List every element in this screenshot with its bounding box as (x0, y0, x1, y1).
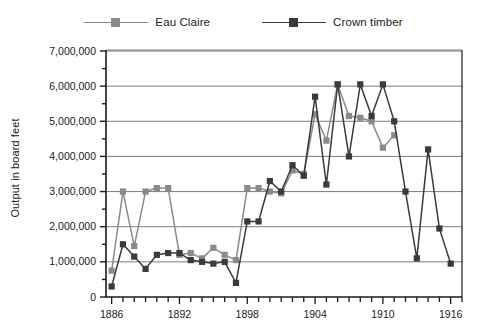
chart-container: Eau Claire Crown timber Output in board … (0, 0, 487, 336)
data-point-marker (165, 185, 171, 191)
data-series-group (109, 81, 454, 289)
data-point-marker (131, 243, 137, 249)
data-point-marker (323, 138, 329, 144)
data-point-marker (188, 250, 194, 256)
data-point-marker (380, 145, 386, 151)
x-tick-label: 1898 (236, 308, 260, 320)
y-tick-label: 0 (90, 291, 96, 303)
data-point-marker (109, 283, 115, 289)
data-point-marker (301, 173, 307, 179)
x-tick-label: 1910 (371, 308, 395, 320)
data-point-marker (368, 113, 374, 119)
data-point-marker (368, 118, 374, 124)
data-point-marker (255, 218, 261, 224)
data-point-marker (131, 253, 137, 259)
data-point-marker (165, 250, 171, 256)
y-tick-label: 6,000,000 (49, 80, 96, 92)
data-point-marker (210, 245, 216, 251)
data-point-marker (425, 146, 431, 152)
data-point-marker (222, 259, 228, 265)
y-tick-label: 5,000,000 (49, 115, 96, 127)
data-point-marker (154, 185, 160, 191)
data-point-marker (380, 81, 386, 87)
x-tick-label: 1904 (303, 308, 327, 320)
data-point-marker (210, 261, 216, 267)
data-point-marker (120, 188, 126, 194)
data-point-marker (255, 185, 261, 191)
data-point-marker (346, 153, 352, 159)
data-point-marker (188, 257, 194, 263)
y-axis-tick-labels: 01,000,0002,000,0003,000,0004,000,0005,0… (49, 45, 96, 303)
x-axis-tick-labels: 188618921898190419101916 (100, 308, 463, 320)
x-axis-ticks (112, 297, 462, 304)
data-point-marker (233, 280, 239, 286)
data-point-marker (142, 266, 148, 272)
y-tick-label: 3,000,000 (49, 185, 96, 197)
data-point-marker (391, 118, 397, 124)
data-point-marker (335, 81, 341, 87)
y-tick-label: 2,000,000 (49, 220, 96, 232)
data-point-marker (199, 259, 205, 265)
gridlines (106, 51, 462, 262)
data-point-marker (402, 188, 408, 194)
data-point-marker (414, 255, 420, 261)
data-point-marker (346, 113, 352, 119)
data-point-marker (222, 252, 228, 258)
data-point-marker (323, 181, 329, 187)
data-point-marker (244, 218, 250, 224)
chart-plot-area: 01,000,0002,000,0003,000,0004,000,0005,0… (0, 0, 487, 336)
data-point-marker (176, 250, 182, 256)
data-point-marker (278, 188, 284, 194)
data-point-marker (289, 162, 295, 168)
x-tick-label: 1892 (168, 308, 192, 320)
data-point-marker (312, 94, 318, 100)
y-tick-label: 7,000,000 (49, 45, 96, 57)
x-tick-label: 1916 (439, 308, 463, 320)
x-tick-label: 1886 (100, 308, 124, 320)
series-crown-timber (109, 81, 454, 289)
data-point-marker (267, 178, 273, 184)
data-point-marker (142, 188, 148, 194)
data-point-marker (244, 185, 250, 191)
series-eau-claire (109, 81, 398, 273)
y-tick-label: 4,000,000 (49, 150, 96, 162)
data-point-marker (448, 261, 454, 267)
data-point-marker (357, 115, 363, 121)
axis-lines (106, 50, 462, 297)
data-point-marker (120, 241, 126, 247)
data-point-marker (109, 268, 115, 274)
data-point-marker (154, 252, 160, 258)
data-point-marker (357, 81, 363, 87)
y-tick-label: 1,000,000 (49, 255, 96, 267)
y-axis-ticks (100, 51, 106, 297)
data-point-marker (436, 225, 442, 231)
data-point-marker (233, 257, 239, 263)
